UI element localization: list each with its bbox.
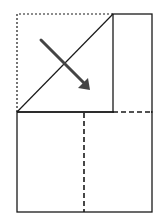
right-flap [113, 14, 152, 112]
origami-diagram [0, 0, 158, 224]
fold-arrow-icon [41, 40, 84, 83]
